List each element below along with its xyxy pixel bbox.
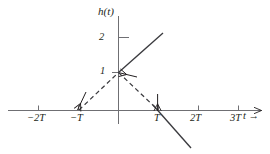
rising-solid-ray — [119, 33, 164, 73]
x-tick-label-T: T — [154, 113, 160, 124]
y-tick-label-1: 1 — [100, 66, 105, 77]
rising-dashed-ray — [79, 73, 119, 111]
x-tick-label-minus-2T: −2T — [27, 113, 45, 124]
x-axis-label: t → — [243, 111, 259, 122]
plot-canvas — [0, 0, 270, 154]
x-tick-label-3T: 3T — [230, 113, 241, 124]
falling-dashed-ray — [119, 73, 159, 111]
y-tick-label-2: 2 — [99, 32, 104, 43]
figure-container: h(t) t → 2 1 −2T −T T 2T 3T — [0, 0, 270, 154]
x-tick-label-2T: 2T — [190, 113, 201, 124]
y-axis-label: h(t) — [98, 6, 114, 17]
arrow-at-unit-value-icon — [120, 73, 138, 77]
x-tick-label-minus-T: −T — [70, 113, 83, 124]
